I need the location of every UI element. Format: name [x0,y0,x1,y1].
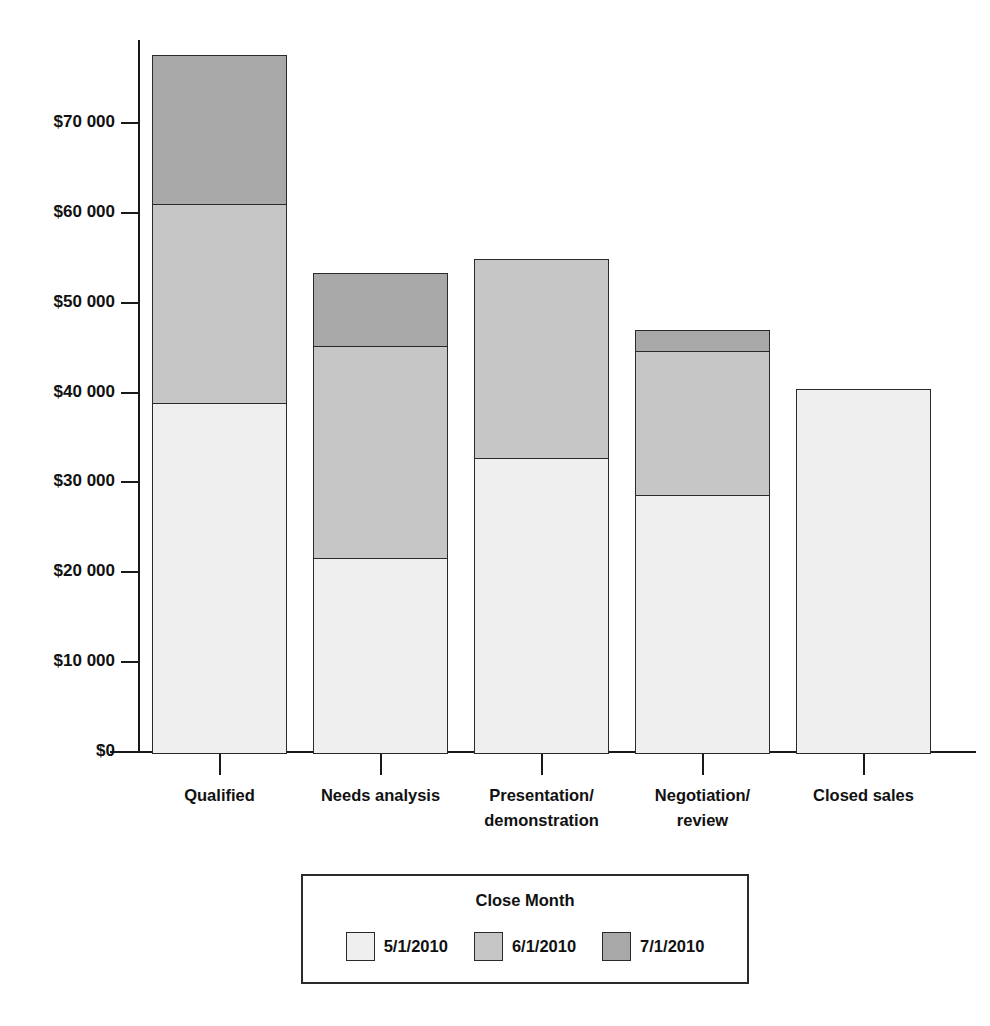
legend-title: Close Month [303,891,747,910]
bar-stack-segments [635,325,770,752]
y-axis-tick [121,661,138,663]
legend-item-label: 5/1/2010 [384,937,448,956]
y-axis-tick-label-text: $0 [3,741,115,761]
y-axis-tick-label-text: $10 000 [3,651,115,671]
y-axis-tick [121,212,138,214]
y-axis-tick-label-text: $40 000 [3,382,115,402]
bar-segment-5-1-2010[interactable] [313,558,448,754]
y-axis-tick [121,751,138,753]
y-axis-tick-label: $50 000 [0,292,115,312]
x-axis-category-label-line: review [603,808,803,833]
y-axis-tick-label: $30 000 [0,471,115,491]
bar-stack[interactable] [152,50,287,752]
y-axis-tick [121,302,138,304]
legend-swatch-icon [346,932,375,961]
legend-item[interactable]: 5/1/2010 [346,932,448,961]
y-axis-tick-label: $40 000 [0,382,115,402]
y-axis-tick-label: $70 000 [0,112,115,132]
bar-segment-6-1-2010[interactable] [313,346,448,559]
bar-stack[interactable] [635,325,770,752]
y-axis-tick [121,571,138,573]
x-axis-category-label-line: Closed sales [764,783,964,808]
legend-item-label: 6/1/2010 [512,937,576,956]
y-axis-tick-label-text: $60 000 [3,202,115,222]
x-axis-tick [380,753,382,775]
bar-segment-5-1-2010[interactable] [474,458,609,754]
y-axis-tick-label: $20 000 [0,561,115,581]
legend: Close Month 5/1/20106/1/20107/1/2010 [301,874,749,984]
x-axis-tick [219,753,221,775]
y-axis-tick-label-text: $20 000 [3,561,115,581]
bar-segment-5-1-2010[interactable] [796,389,931,754]
y-axis-tick [121,122,138,124]
x-axis-tick [541,753,543,775]
bar-segment-5-1-2010[interactable] [635,495,770,754]
legend-items: 5/1/20106/1/20107/1/2010 [303,932,747,961]
bar-segment-6-1-2010[interactable] [152,204,287,404]
y-axis-tick [121,392,138,394]
legend-swatch-icon [474,932,503,961]
bar-segment-7-1-2010[interactable] [313,273,448,348]
bar-segment-6-1-2010[interactable] [635,351,770,497]
y-axis-tick-label: $0 [0,741,115,761]
legend-item[interactable]: 6/1/2010 [474,932,576,961]
bar-stack[interactable] [313,269,448,752]
bar-segment-7-1-2010[interactable] [152,55,287,206]
y-axis-tick [121,481,138,483]
legend-item-label: 7/1/2010 [640,937,704,956]
bar-segment-5-1-2010[interactable] [152,403,287,753]
legend-item[interactable]: 7/1/2010 [602,932,704,961]
bar-stack-segments [152,50,287,752]
bar-stack[interactable] [474,256,609,752]
stacked-bar-chart: $0$10 000$20 000$30 000$40 000$50 000$60… [0,0,990,1026]
bar-stack[interactable] [796,387,931,752]
x-axis-category-label: Closed sales [764,783,964,808]
y-axis-tick-label-text: $50 000 [3,292,115,312]
y-axis-tick-label-text: $30 000 [3,471,115,491]
bar-segment-7-1-2010[interactable] [635,330,770,352]
y-axis-tick-label-text: $70 000 [3,112,115,132]
legend-swatch-icon [602,932,631,961]
x-axis-tick [863,753,865,775]
bar-stack-segments [796,387,931,752]
bar-segment-6-1-2010[interactable] [474,259,609,459]
bar-stack-segments [313,269,448,752]
y-axis-tick-label: $10 000 [0,651,115,671]
y-axis-tick-label: $60 000 [0,202,115,222]
bar-stack-segments [474,256,609,752]
x-axis-tick [702,753,704,775]
